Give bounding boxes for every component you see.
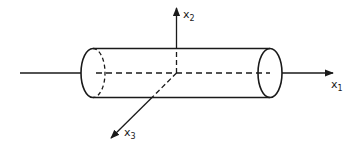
x3-axis-hidden-segment xyxy=(152,73,177,98)
x3-label: x3 xyxy=(124,126,136,141)
cylinder-coordinate-diagram: x2 x1 x3 xyxy=(0,0,357,150)
cylinder-left-end-visible xyxy=(81,49,93,98)
x1-label: x1 xyxy=(331,78,343,93)
x3-axis xyxy=(111,73,177,138)
x2-label: x2 xyxy=(183,8,195,23)
